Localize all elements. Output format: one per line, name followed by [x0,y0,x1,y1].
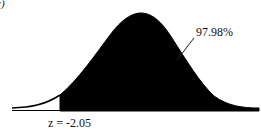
panel-label: c) [0,0,5,10]
left-tail-curve [12,95,60,108]
z-value-label: z = -2.05 [48,116,91,129]
area-label: 97.98% [196,25,233,39]
normal-distribution-diagram: c) 97.98% z = -2.05 [0,0,261,129]
